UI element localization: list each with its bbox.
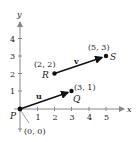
point-S [104, 54, 108, 58]
svg-text:3: 3 [70, 113, 75, 122]
point-P-label: P [9, 111, 17, 121]
origin-leader-line [21, 111, 29, 123]
point-Q-coords: (3, 1) [74, 83, 96, 92]
point-Q-label: Q [73, 94, 81, 104]
point-P [18, 107, 23, 112]
vector-v-label: v [73, 56, 79, 66]
point-P-coords: (0, 0) [24, 127, 46, 136]
point-S-coords: (5, 3) [88, 43, 110, 52]
point-R-coords: (2, 2) [34, 60, 56, 69]
svg-text:4: 4 [10, 35, 15, 44]
x-axis-label: x [127, 105, 132, 114]
svg-text:2: 2 [10, 70, 15, 79]
svg-text:5: 5 [104, 113, 109, 122]
x-tick-labels: 1 2 3 4 5 [36, 113, 110, 122]
y-axis-label: y [16, 10, 22, 19]
y-tick-labels: 1 2 3 4 [10, 35, 15, 97]
svg-text:1: 1 [36, 113, 41, 122]
vector-u-label: u [36, 91, 42, 101]
svg-text:2: 2 [53, 113, 58, 122]
point-S-label: S [110, 52, 116, 62]
point-R-label: R [41, 70, 49, 80]
svg-text:1: 1 [10, 87, 15, 96]
vector-diagram: x y 1 2 3 4 5 1 2 3 4 u v P Q R S [0, 0, 138, 142]
point-R [52, 71, 56, 75]
svg-text:3: 3 [10, 52, 15, 61]
svg-text:4: 4 [87, 113, 92, 122]
vector-u [20, 93, 68, 110]
